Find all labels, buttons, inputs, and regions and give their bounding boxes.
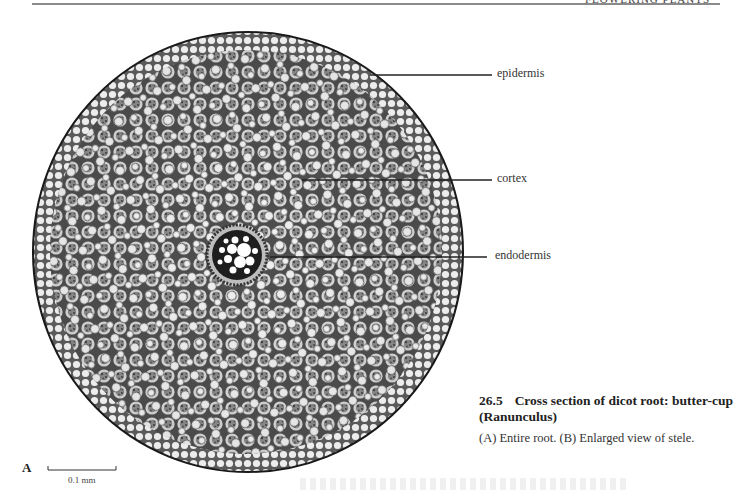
caption-body: (A) Entire root. (B) Enlarged view of st…: [479, 431, 744, 446]
label-endodermis: endodermis: [495, 248, 551, 263]
stele: [212, 230, 262, 280]
scale-bar: [48, 466, 116, 470]
figure-caption: 26.5Cross section of dicot root: butter-…: [479, 393, 744, 446]
scale-bar-label: 0.1 mm: [68, 475, 96, 485]
page-bleed-through: [300, 478, 630, 490]
caption-title-text: Cross section of dicot root: butter-cup …: [479, 393, 733, 424]
panel-letter: A: [22, 460, 31, 476]
figure-number: 26.5: [479, 393, 503, 408]
label-epidermis: epidermis: [497, 66, 544, 81]
caption-title: 26.5Cross section of dicot root: butter-…: [479, 393, 744, 425]
label-cortex: cortex: [497, 171, 527, 186]
